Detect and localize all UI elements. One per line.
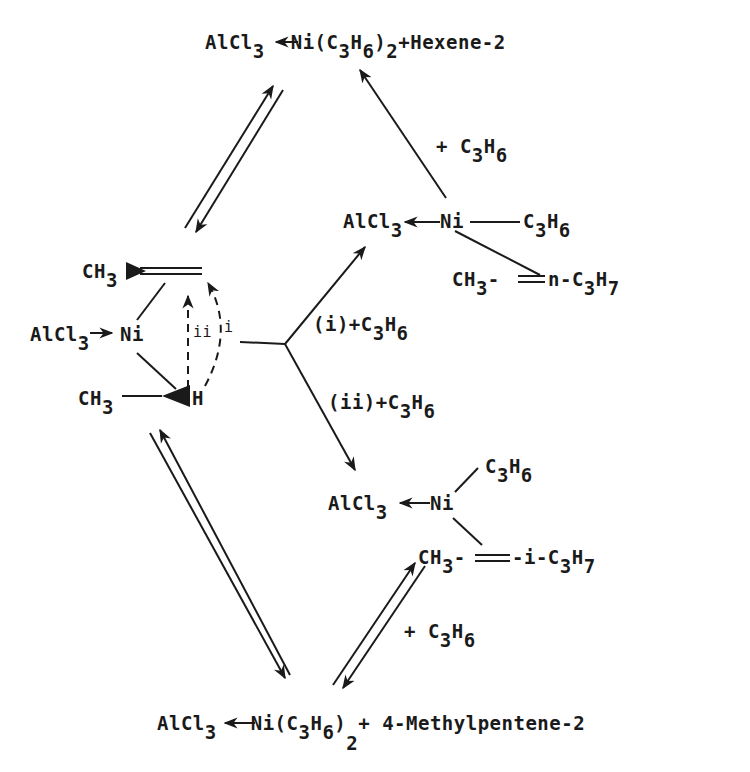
branch-arrows [240, 247, 365, 470]
methylpentene-product-label: AlCl3Ni(C3H6)2+ 4-Methylpentene-2 [157, 714, 585, 743]
branch-label-ii: (ii)+C3H6 [328, 393, 436, 412]
wedge-bond-top [126, 262, 146, 280]
hexene-product-label: AlCl3Ni(C3H6)2+Hexene-2 [205, 33, 506, 52]
reaction-scheme-diagram: AlCl3Ni(C3H6)2+Hexene-2 + C3H6 AlCl3 Ni … [0, 0, 750, 772]
upper-right-c3h6-ligand: C3H6 [523, 212, 571, 231]
branch-label-i: (i)+C3H6 [313, 315, 409, 334]
center-hydride: H [192, 389, 204, 408]
upper-right-ni: Ni [440, 212, 464, 231]
reagent-propylene-lower: + C3H6 [404, 622, 476, 641]
upper-right-olefin-left: CH3- [452, 270, 500, 289]
center-alcl3: AlCl3 [30, 325, 90, 344]
center-top-ch3: CH3 [82, 262, 118, 281]
lower-right-olefin-left: CH3- [418, 548, 466, 567]
path-label-ii: ii [193, 325, 212, 340]
center-ni: Ni [120, 325, 144, 344]
lower-right-olefin-right: -i-C3H7 [512, 548, 596, 567]
lower-right-ni: Ni [430, 494, 454, 513]
path-label-i: i [224, 320, 234, 335]
lower-right-c3h6-ligand: C3H6 [485, 457, 533, 476]
arrow-to-hexene-product [360, 70, 446, 198]
upper-right-alcl3: AlCl3 [343, 212, 403, 231]
lower-right-alcl3: AlCl3 [328, 494, 388, 513]
reagent-propylene-upper: + C3H6 [436, 137, 508, 156]
equilibrium-arrow-bottom-left [150, 430, 290, 678]
equilibrium-arrow-top [185, 86, 283, 232]
upper-right-olefin-right: n-C3H7 [548, 270, 620, 289]
center-bottom-ch3: CH3 [78, 389, 114, 408]
arrows-and-bonds-layer [0, 0, 750, 772]
